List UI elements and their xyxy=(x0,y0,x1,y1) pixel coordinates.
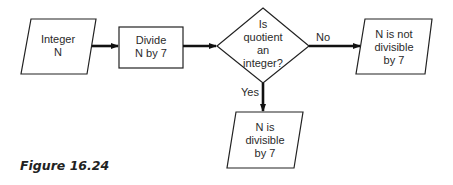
process-node: Divide N by 7 xyxy=(119,27,183,68)
decision-node: Is quotient an integer? xyxy=(217,8,309,83)
figure-caption: Figure 16.24 xyxy=(20,158,109,173)
output-no-line-3: by 7 xyxy=(384,54,405,66)
output-no-line-2: divisible xyxy=(374,41,413,53)
yes-label: Yes xyxy=(241,86,259,98)
decision-node-line-2: quotient xyxy=(243,31,282,43)
output-yes-line-3: by 7 xyxy=(255,147,276,159)
output-not-divisible-node: N is not divisible by 7 xyxy=(356,19,432,74)
output-no-line-1: N is not xyxy=(375,28,412,40)
process-node-line-1: Divide xyxy=(136,34,167,46)
input-node-line-1: Integer xyxy=(41,33,76,45)
decision-node-line-4: integer? xyxy=(243,57,283,69)
flowchart: Integer N Divide N by 7 Is quotient an i… xyxy=(0,0,453,185)
output-yes-line-2: divisible xyxy=(245,134,284,146)
input-node: Integer N xyxy=(21,19,96,74)
no-label: No xyxy=(316,31,330,43)
output-yes-line-1: N is xyxy=(256,121,275,133)
output-divisible-node: N is divisible by 7 xyxy=(227,112,303,168)
decision-node-line-1: Is xyxy=(259,18,268,30)
decision-node-line-3: an xyxy=(257,44,269,56)
input-node-line-2: N xyxy=(54,46,62,58)
process-node-line-2: N by 7 xyxy=(135,47,167,59)
